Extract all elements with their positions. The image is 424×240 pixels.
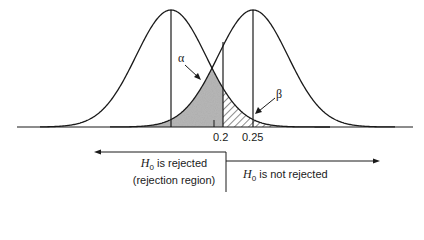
rejection-region-text: (rejection region) bbox=[128, 174, 220, 187]
beta-pointer-arrow bbox=[259, 98, 275, 111]
beta-region bbox=[223, 88, 300, 127]
beta-arrowhead-icon bbox=[255, 107, 262, 114]
alpha-region bbox=[130, 68, 223, 127]
alpha-label: α bbox=[178, 52, 184, 65]
tick-label-alt-mean: 0.25 bbox=[242, 131, 263, 144]
left-arrowhead-icon bbox=[94, 150, 101, 155]
h0-symbol: H bbox=[243, 167, 252, 181]
not-rejected-text: is not rejected bbox=[256, 168, 328, 180]
rejected-region-label: H0 is rejected (rejection region) bbox=[128, 157, 220, 187]
beta-label: β bbox=[276, 88, 282, 101]
not-rejected-region-label: H0 is not rejected bbox=[243, 168, 328, 185]
h0-symbol: H bbox=[141, 156, 150, 170]
tick-label-critical: 0.2 bbox=[213, 131, 228, 144]
right-arrowhead-icon bbox=[373, 159, 380, 164]
rejected-text: is rejected bbox=[154, 157, 207, 169]
